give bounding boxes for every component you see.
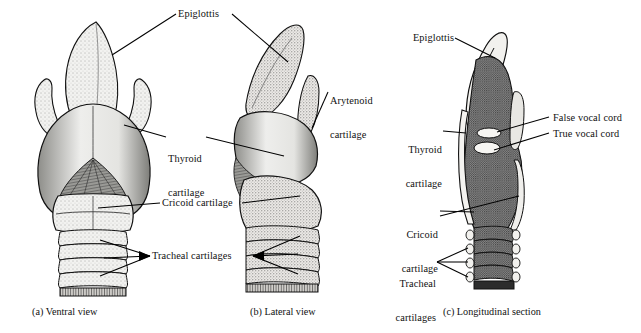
label-cricoid-cartilage-c-line1: Cricoid: [372, 229, 438, 240]
label-tracheal-cartilages-c-line2: cartilages: [368, 312, 436, 323]
label-tracheal-cartilages-c-line1: Tracheal: [368, 278, 436, 289]
label-epiglottis-c: Epiglottis: [382, 32, 454, 43]
tracheal-cartilages-shape-b: [246, 226, 320, 292]
label-false-vocal-cord: False vocal cord: [553, 112, 622, 123]
true-vocal-cord-shape-c: [474, 142, 500, 154]
larynx-illustration: [0, 0, 641, 333]
panel-c-longitudinal-section: [437, 33, 549, 289]
tracheal-cartilages-shape-a: [59, 230, 128, 296]
label-arytenoid-cartilage-line1: Arytenoid: [330, 95, 373, 106]
label-thyroid-cartilage-c-line2: cartilage: [374, 178, 442, 189]
label-tracheal-cartilages: Tracheal cartilages: [152, 250, 232, 261]
label-cricoid-cartilage: Cricoid cartilage: [162, 197, 233, 208]
cricoid-cartilage-shape-b: [240, 176, 322, 232]
label-thyroid-cartilage-line1: Thyroid: [168, 153, 204, 164]
tracheal-cartilages-shape-c: [466, 226, 520, 289]
label-arytenoid-cartilage-line2: cartilage: [330, 129, 373, 140]
label-arytenoid-cartilage: Arytenoid cartilage: [330, 72, 373, 152]
label-thyroid-cartilage-c: Thyroid cartilage: [374, 121, 442, 201]
caption-panel-a: (a) Ventral view: [32, 306, 97, 317]
label-tracheal-cartilages-c: Tracheal cartilages: [368, 255, 436, 333]
label-true-vocal-cord: True vocal cord: [553, 128, 619, 139]
false-vocal-cord-shape-c: [477, 128, 501, 138]
label-thyroid-cartilage-c-line1: Thyroid: [374, 144, 442, 155]
epiglottis-shape-b: [246, 25, 304, 120]
label-epiglottis: Epiglottis: [178, 8, 219, 19]
caption-panel-c: (c) Longitudinal section: [443, 306, 541, 317]
caption-panel-b: (b) Lateral view: [250, 306, 316, 317]
figure-canvas: Epiglottis Thyroid cartilage Arytenoid c…: [0, 0, 641, 333]
